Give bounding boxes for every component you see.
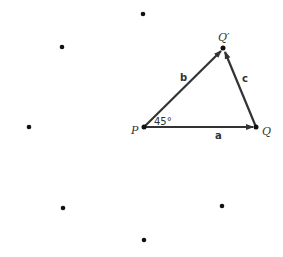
vector-c bbox=[225, 52, 256, 127]
point-q bbox=[254, 125, 259, 130]
dot-left bbox=[27, 125, 32, 130]
diagram-svg: P Q Q′ a b c 45° bbox=[0, 0, 283, 257]
label-p: P bbox=[130, 124, 139, 137]
vector-diagram: P Q Q′ a b c 45° bbox=[0, 0, 283, 257]
label-vector-a: a bbox=[215, 130, 222, 141]
label-vector-c: c bbox=[242, 73, 248, 84]
dot-top bbox=[141, 12, 146, 17]
label-q: Q bbox=[262, 125, 271, 138]
dot-lower-right bbox=[220, 204, 225, 209]
label-vector-b: b bbox=[180, 72, 187, 83]
point-q-prime bbox=[221, 46, 226, 51]
dot-upper-left bbox=[60, 45, 65, 50]
dot-bottom bbox=[142, 238, 147, 243]
point-p bbox=[142, 125, 147, 130]
label-q-prime: Q′ bbox=[218, 31, 230, 44]
dot-lower-left bbox=[61, 206, 66, 211]
label-angle: 45° bbox=[154, 116, 172, 127]
